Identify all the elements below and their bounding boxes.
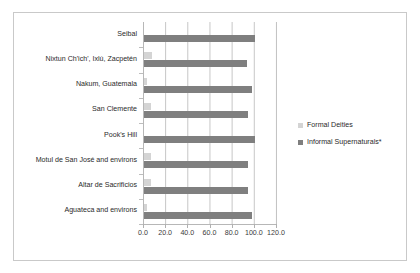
- x-axis-tick-label: 40.0: [180, 229, 194, 237]
- legend-label: Informal Supernaturals*: [307, 138, 382, 146]
- bar-formal-deities: [144, 52, 152, 59]
- bar-group: [144, 174, 276, 199]
- bar-informal-supernaturals: [144, 212, 252, 219]
- chart-legend: Formal DeitiesInformal Supernaturals*: [298, 121, 404, 155]
- x-axis-tick-label: 60.0: [203, 229, 217, 237]
- bar-group: [144, 73, 276, 98]
- category-axis-labels: SeibalNixtun Ch'ich', Ixlú, ZacpeténNaku…: [14, 22, 142, 224]
- plot-area: [143, 22, 276, 224]
- category-label: Nixtun Ch'ich', Ixlú, Zacpetén: [14, 47, 142, 72]
- bar-informal-supernaturals: [144, 161, 248, 168]
- category-axis-tick: [139, 148, 143, 149]
- legend-label: Formal Deities: [307, 121, 353, 129]
- bar-formal-deities: [144, 204, 147, 211]
- x-axis-tick-label: 20.0: [158, 229, 172, 237]
- plot-right-gridline: [276, 22, 277, 224]
- x-axis-tick: [276, 224, 277, 228]
- x-axis-tick: [143, 224, 144, 228]
- x-axis-tick: [165, 224, 166, 228]
- x-axis-tick-label: 100.0: [245, 229, 263, 237]
- bar-formal-deities: [144, 153, 151, 160]
- category-label: Motul de San José and environs: [14, 148, 142, 173]
- category-axis-tick: [139, 174, 143, 175]
- category-label: Pook's Hill: [14, 123, 142, 148]
- category-label: San Clemente: [14, 98, 142, 123]
- category-axis-tick: [139, 73, 143, 74]
- x-axis-tick: [210, 224, 211, 228]
- x-axis-tick: [254, 224, 255, 228]
- bar-group: [144, 47, 276, 72]
- category-label: Altar de Sacrificios: [14, 174, 142, 199]
- bar-informal-supernaturals: [144, 86, 252, 93]
- legend-swatch-icon: [298, 123, 303, 128]
- bar-group: [144, 199, 276, 224]
- legend-item[interactable]: Formal Deities: [298, 121, 404, 129]
- category-axis-tick: [139, 224, 143, 225]
- category-axis-tick: [139, 98, 143, 99]
- bar-informal-supernaturals: [144, 187, 248, 194]
- category-label: Seibal: [14, 22, 142, 47]
- bar-formal-deities: [144, 179, 151, 186]
- category-label: Aguateca and environs: [14, 199, 142, 224]
- bar-formal-deities: [144, 78, 147, 85]
- x-axis-tick-labels: 0.020.040.060.080.0100.0120.0: [143, 229, 277, 241]
- x-axis-tick-label: 80.0: [225, 229, 239, 237]
- bar-informal-supernaturals: [144, 136, 255, 143]
- chart-frame: SeibalNixtun Ch'ich', Ixlú, ZacpeténNaku…: [13, 12, 407, 261]
- chart-plot-wrapper: SeibalNixtun Ch'ich', Ixlú, ZacpeténNaku…: [14, 13, 408, 262]
- category-axis-tick: [139, 123, 143, 124]
- bar-group: [144, 22, 276, 47]
- legend-item[interactable]: Informal Supernaturals*: [298, 138, 404, 146]
- category-label: Nakum, Guatemala: [14, 73, 142, 98]
- bar-group: [144, 148, 276, 173]
- bar-informal-supernaturals: [144, 111, 248, 118]
- category-axis-tick: [139, 199, 143, 200]
- x-axis-tick: [187, 224, 188, 228]
- bar-informal-supernaturals: [144, 35, 255, 42]
- bar-informal-supernaturals: [144, 60, 247, 67]
- category-axis-tick: [139, 47, 143, 48]
- bar-formal-deities: [144, 103, 151, 110]
- bar-group: [144, 123, 276, 148]
- legend-swatch-icon: [298, 140, 303, 145]
- x-axis-tick-label: 120.0: [267, 229, 285, 237]
- bar-group: [144, 98, 276, 123]
- x-axis-tick: [232, 224, 233, 228]
- x-axis-tick-label: 0.0: [138, 229, 148, 237]
